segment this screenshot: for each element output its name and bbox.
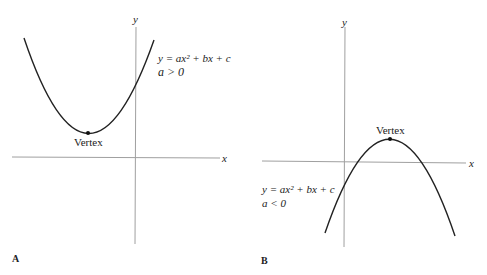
panel-a-vertex-point	[86, 131, 90, 135]
panel-a-x-axis-label: x	[222, 152, 227, 164]
panel-b-x-axis	[262, 161, 466, 163]
panel-b-vertex-label: Vertex	[376, 124, 405, 136]
panel-b-x-axis-label: x	[469, 157, 474, 169]
panel-a-y-axis-label: y	[133, 13, 138, 25]
panel-b-y-axis	[344, 27, 345, 247]
panel-b-condition: a < 0	[262, 197, 286, 209]
panel-a-label: A	[12, 253, 19, 265]
panel-b-vertex-point	[388, 137, 392, 141]
panel-a-y-axis	[135, 27, 136, 244]
panel-b-label: B	[261, 255, 268, 267]
panel-a-vertex-label: Vertex	[74, 136, 103, 148]
panel-a-x-axis	[12, 157, 220, 158]
panel-a-condition: a > 0	[158, 66, 184, 78]
panel-a-parabola	[24, 38, 154, 134]
panel-b-y-axis-label: y	[342, 16, 347, 28]
panel-b-equation: y = ax² + bx + c	[262, 183, 335, 195]
panel-a-equation: y = ax² + bx + c	[158, 52, 231, 64]
